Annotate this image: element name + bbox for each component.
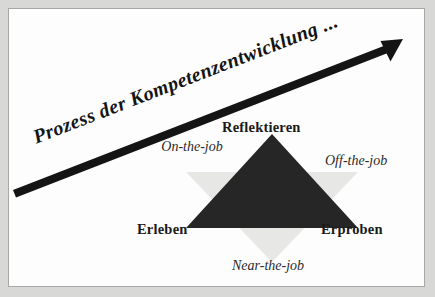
corner-label-erproben: Erproben (321, 222, 383, 238)
location-label-off-the-job: Off-the-job (325, 153, 387, 168)
corner-label-erleben: Erleben (137, 222, 188, 238)
location-label-near-the-job: Near-the-job (232, 258, 304, 273)
corner-label-reflektieren: Reflektieren (222, 120, 301, 136)
location-label-on-the-job: On-the-job (161, 139, 223, 154)
competence-development-diagram: Prozess der Kompetenzentwicklung ... Ref… (0, 0, 435, 297)
